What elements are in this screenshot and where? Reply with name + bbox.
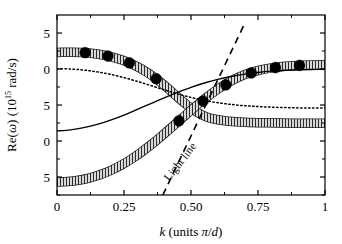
y-axis-title: Re(ω) (1015 rad/s) [4, 58, 19, 152]
x-tick-label: 0.50 [180, 199, 203, 214]
x-tick-label: 0 [54, 199, 61, 214]
lower-band-markers-point [294, 60, 305, 71]
x-axis-title: k (units π/d) [160, 224, 223, 239]
y-tick-label: 5 [44, 170, 51, 185]
upper-band-markers-point [151, 73, 162, 84]
lower-band-markers-point [270, 62, 281, 73]
lower-band-markers-point [174, 115, 185, 126]
y-tick-label: 0 [44, 62, 51, 77]
figure-container: Light line 00.250.500.751 50505 k (units… [0, 0, 342, 244]
x-tick-label: 0.75 [247, 199, 270, 214]
y-tick-label: 5 [44, 98, 51, 113]
lower-band-markers-point [246, 68, 257, 79]
y-tick-label: 0 [44, 134, 51, 149]
chart-canvas: Light line 00.250.500.751 50505 k (units… [0, 0, 342, 244]
upper-band-markers-point [124, 57, 135, 68]
x-tick-label: 0.25 [113, 199, 136, 214]
y-tick-label: 5 [44, 26, 51, 41]
lower-band-markers-point [198, 96, 209, 107]
lower-band-markers-point [220, 79, 231, 90]
upper-band-markers-point [80, 47, 91, 58]
upper-band-markers-point [103, 51, 114, 62]
x-tick-label: 1 [322, 199, 329, 214]
